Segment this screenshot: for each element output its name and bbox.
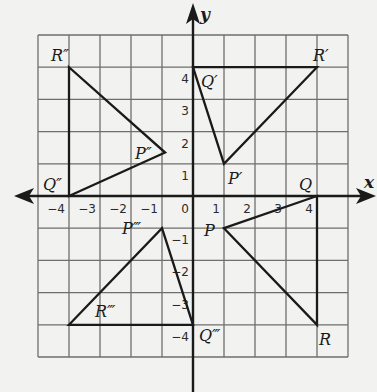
vertex-label: Q′ bbox=[201, 72, 218, 91]
x-tick-label: 4 bbox=[305, 202, 313, 216]
vertex-label: P‴ bbox=[121, 219, 142, 238]
x-tick-label: −3 bbox=[78, 202, 96, 216]
vertex-label: R bbox=[318, 330, 331, 349]
x-tick-label: 1 bbox=[212, 202, 220, 216]
x-tick-label: −4 bbox=[47, 202, 65, 216]
x-tick-label: 2 bbox=[243, 202, 251, 216]
x-tick-label: −1 bbox=[140, 202, 158, 216]
vertex-label: P′ bbox=[227, 169, 243, 188]
vertex-label: Q bbox=[299, 175, 312, 194]
y-tick-label: 3 bbox=[181, 104, 189, 118]
vertex-label: R′ bbox=[312, 46, 329, 65]
vertex-label: Q″ bbox=[43, 175, 62, 194]
x-axis-label: x bbox=[363, 172, 375, 192]
vertex-label: R″ bbox=[50, 46, 69, 65]
y-tick-label: 2 bbox=[181, 137, 189, 151]
y-tick-label: −1 bbox=[171, 233, 189, 247]
y-tick-label: 4 bbox=[181, 72, 189, 86]
vertex-label: R‴ bbox=[94, 302, 116, 321]
y-tick-label: −4 bbox=[171, 330, 189, 344]
x-tick-label: 0 bbox=[181, 202, 189, 216]
x-tick-label: −2 bbox=[109, 202, 127, 216]
y-axis-label: y bbox=[199, 4, 211, 24]
vertex-label: P″ bbox=[134, 144, 152, 163]
y-tick-label: 1 bbox=[181, 169, 189, 183]
vertex-label: P bbox=[203, 221, 215, 240]
vertex-label: Q‴ bbox=[199, 326, 221, 345]
coordinate-plane: x y −4−3−2−1012344321−1−2−3−4 PQRP′Q′R′P… bbox=[0, 0, 377, 392]
